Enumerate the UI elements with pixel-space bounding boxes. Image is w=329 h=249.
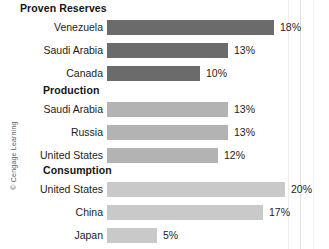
- bar: [107, 205, 263, 220]
- group-title: Proven Reserves: [20, 2, 107, 14]
- bar: [107, 43, 228, 58]
- bar-row: United States20%: [0, 179, 329, 199]
- figure-container: © Cengage Learning Proven ReservesVenezu…: [0, 0, 329, 249]
- bar-value-label: 5%: [163, 225, 178, 245]
- bar-value-label: 10%: [206, 63, 227, 83]
- bar-category-label: United States: [0, 145, 103, 165]
- bar-category-label: Russia: [0, 122, 103, 142]
- bar: [107, 148, 218, 163]
- bar-category-label: Japan: [0, 225, 103, 245]
- bar-value-label: 12%: [224, 145, 245, 165]
- grouped-bar-chart: Proven ReservesVenezuela18%Saudi Arabia1…: [0, 0, 329, 249]
- bar: [107, 125, 228, 140]
- bar-row: Japan5%: [0, 225, 329, 245]
- bar-row: Saudi Arabia13%: [0, 99, 329, 119]
- bar-category-label: United States: [0, 179, 103, 199]
- bar-row: Venezuela18%: [0, 17, 329, 37]
- bar: [107, 182, 285, 197]
- bar-category-label: Saudi Arabia: [0, 40, 103, 60]
- group-title: Consumption: [43, 164, 112, 176]
- bar-category-label: Venezuela: [0, 17, 103, 37]
- bar: [107, 20, 274, 35]
- group-title: Production: [43, 84, 99, 96]
- bar-row: United States12%: [0, 145, 329, 165]
- bar-value-label: 17%: [269, 202, 290, 222]
- bar-value-label: 18%: [280, 17, 301, 37]
- bar-row: Canada10%: [0, 63, 329, 83]
- bar-value-label: 13%: [234, 99, 255, 119]
- bar: [107, 228, 157, 243]
- bar-value-label: 20%: [291, 179, 312, 199]
- bar-category-label: Saudi Arabia: [0, 99, 103, 119]
- bar-category-label: China: [0, 202, 103, 222]
- bar-value-label: 13%: [234, 40, 255, 60]
- bar-row: Saudi Arabia13%: [0, 40, 329, 60]
- bar-row: Russia13%: [0, 122, 329, 142]
- bar-value-label: 13%: [234, 122, 255, 142]
- bar: [107, 66, 200, 81]
- bar-category-label: Canada: [0, 63, 103, 83]
- bar: [107, 102, 228, 117]
- bar-row: China17%: [0, 202, 329, 222]
